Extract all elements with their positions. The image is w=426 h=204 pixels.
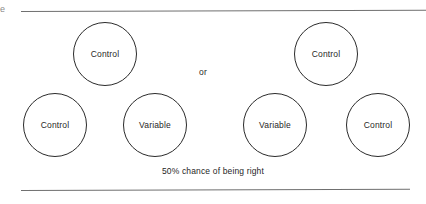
circle-label: Control	[41, 121, 69, 130]
circle-right-group-bottom-right: Control	[346, 93, 410, 157]
circle-right-group-top: Control	[294, 22, 358, 86]
circle-label: Variable	[139, 121, 171, 130]
figure-container: e Control Control Variable or Control Va…	[0, 0, 426, 204]
circle-left-group-bottom-left: Control	[23, 93, 87, 157]
circle-label: Variable	[259, 121, 291, 130]
circle-label: Control	[364, 121, 392, 130]
circle-left-group-bottom-right: Variable	[123, 93, 187, 157]
page-edge-artifact: e	[0, 3, 8, 15]
circle-right-group-bottom-left: Variable	[243, 93, 307, 157]
connector-label-or: or	[199, 68, 207, 77]
circle-label: Control	[91, 50, 119, 59]
circle-label: Control	[312, 50, 340, 59]
bottom-divider-rule	[21, 189, 410, 191]
top-divider-rule	[21, 10, 426, 12]
circle-left-group-top: Control	[73, 22, 137, 86]
figure-caption: 50% chance of being right	[0, 167, 426, 176]
